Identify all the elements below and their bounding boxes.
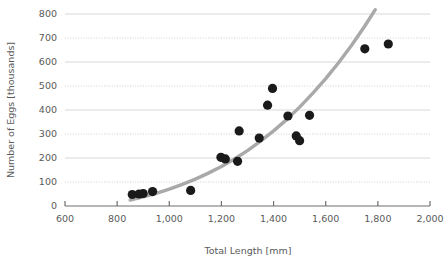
y-tick-label: 0	[51, 200, 57, 211]
y-tick-label: 200	[39, 152, 57, 163]
data-point	[384, 39, 393, 48]
data-point	[360, 44, 369, 53]
grid-lines	[65, 14, 430, 182]
y-tick-label: 400	[39, 104, 57, 115]
y-tick-labels: 0100200300400500600700800	[39, 8, 57, 211]
x-tick-label: 800	[108, 213, 126, 224]
data-point	[235, 126, 244, 135]
x-tick-label: 1,400	[260, 213, 287, 224]
y-axis-title: Number of Eggs [thousands]	[5, 42, 16, 178]
y-tick-label: 600	[39, 56, 57, 67]
data-point	[186, 186, 195, 195]
data-point	[233, 157, 242, 166]
y-tick-label: 100	[39, 176, 57, 187]
x-axis-title: Total Length [mm]	[204, 245, 292, 256]
x-tick-label: 2,000	[416, 213, 443, 224]
data-point	[221, 154, 230, 163]
y-tick-label: 700	[39, 32, 57, 43]
x-tick-label: 1,800	[364, 213, 391, 224]
data-point	[283, 111, 292, 120]
data-point	[139, 189, 148, 198]
y-tick-label: 300	[39, 128, 57, 139]
x-tick-label: 600	[56, 213, 74, 224]
x-tick-labels: 6008001,0001,2001,4001,6001,8002,000	[56, 213, 444, 224]
data-point	[268, 84, 277, 93]
y-tick-label: 800	[39, 8, 57, 19]
y-tick-label: 500	[39, 80, 57, 91]
x-axis	[65, 201, 430, 206]
x-tick-label: 1,600	[312, 213, 339, 224]
data-point	[305, 111, 314, 120]
data-point	[295, 136, 304, 145]
x-tick-label: 1,200	[208, 213, 235, 224]
data-point	[148, 187, 157, 196]
scatter-plot: 0100200300400500600700800 6008001,0001,2…	[0, 0, 448, 262]
data-point	[263, 101, 272, 110]
data-point	[255, 133, 264, 142]
chart-figure: 0100200300400500600700800 6008001,0001,2…	[0, 0, 448, 262]
x-tick-label: 1,000	[156, 213, 183, 224]
data-points-group	[128, 39, 393, 199]
